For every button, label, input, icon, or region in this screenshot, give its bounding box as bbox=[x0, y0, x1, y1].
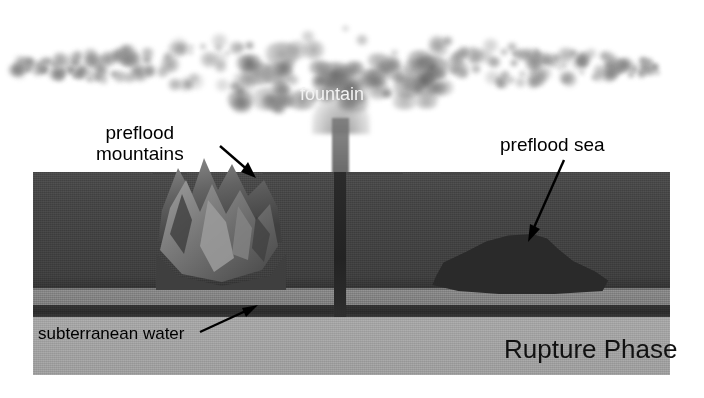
plume-puff bbox=[600, 69, 618, 83]
label-subterranean-water: subterranean water bbox=[38, 324, 184, 344]
plume-puff bbox=[642, 58, 647, 62]
sea-arrow bbox=[516, 156, 576, 246]
plume-core-puff bbox=[234, 54, 264, 72]
phase-title: Rupture Phase bbox=[504, 334, 677, 365]
plume-puff bbox=[441, 36, 453, 46]
plume-puff bbox=[169, 37, 189, 54]
plume-puff bbox=[199, 43, 207, 49]
plume-core-puff bbox=[390, 72, 407, 82]
fountain-jet-column bbox=[332, 118, 349, 178]
plume-puff bbox=[580, 55, 586, 60]
plume-puff bbox=[390, 49, 400, 57]
plume-puff bbox=[82, 48, 99, 62]
label-fountain: fountain bbox=[300, 84, 364, 105]
plume-core-puff bbox=[390, 93, 419, 110]
rupture-rift bbox=[334, 172, 346, 317]
plume-puff bbox=[98, 75, 109, 84]
water-texture bbox=[33, 305, 670, 317]
label-preflood-mountains: preflood mountains bbox=[96, 122, 184, 164]
plume-puff bbox=[481, 38, 499, 53]
plume-puff bbox=[210, 52, 229, 67]
label-preflood-mountains-line2: mountains bbox=[96, 143, 184, 164]
label-preflood-mountains-line1: preflood bbox=[96, 122, 184, 143]
label-preflood-sea: preflood sea bbox=[500, 134, 605, 156]
plume-puff bbox=[470, 64, 482, 74]
plume-puff bbox=[142, 64, 157, 76]
mountains-arrow bbox=[216, 142, 266, 187]
plume-core-puff bbox=[405, 50, 435, 68]
plume-puff bbox=[71, 50, 84, 61]
plume-puff bbox=[61, 69, 66, 73]
plume-core-puff bbox=[228, 82, 243, 91]
plume-puff bbox=[557, 66, 563, 71]
plume-puff bbox=[355, 34, 369, 46]
plume-puff bbox=[188, 44, 195, 50]
plume-puff bbox=[32, 67, 44, 77]
plume-puff bbox=[639, 64, 654, 76]
plume-puff bbox=[511, 50, 519, 57]
layer-subterranean-water bbox=[33, 305, 670, 317]
plume-puff bbox=[509, 59, 519, 67]
figure-canvas: fountain bbox=[0, 0, 704, 398]
plume-puff bbox=[210, 33, 230, 49]
plume-puff bbox=[561, 77, 569, 83]
plume-core-puff bbox=[272, 62, 295, 76]
terrain-bump bbox=[441, 172, 481, 174]
plume-puff bbox=[162, 52, 173, 61]
plume-puff bbox=[496, 82, 504, 89]
plume-puff bbox=[341, 25, 349, 32]
plume-core-puff bbox=[249, 87, 289, 111]
plume-puff bbox=[236, 43, 245, 51]
plume-puff bbox=[110, 53, 125, 65]
water-arrow bbox=[196, 302, 262, 336]
plume-puff bbox=[486, 56, 501, 69]
